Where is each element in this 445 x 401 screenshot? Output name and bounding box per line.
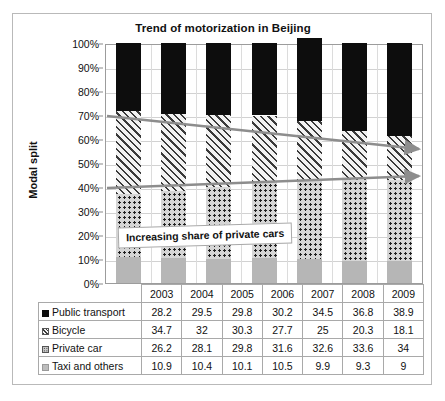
y-axis-ticks: 0%10%20%30%40%50%60%70%80%90%100% xyxy=(55,44,103,284)
bar-segment xyxy=(161,43,186,114)
y-tick-label: 70% xyxy=(53,110,99,122)
table-cell: 29.5 xyxy=(182,303,222,321)
bar-segment xyxy=(252,258,277,283)
stacked-bar xyxy=(297,45,322,283)
y-tick-mark xyxy=(99,212,103,213)
table-corner-cell xyxy=(39,285,142,303)
stacked-bar xyxy=(387,45,412,283)
table-cell: 38.9 xyxy=(383,303,423,321)
legend-swatch-icon xyxy=(42,346,49,353)
bar-segment xyxy=(342,43,367,131)
legend-label: Private car xyxy=(52,342,102,354)
table-cell: 10.9 xyxy=(142,357,182,375)
y-tick-label: 40% xyxy=(53,182,99,194)
table-cell: 32 xyxy=(182,321,222,339)
bar-segment xyxy=(206,43,231,115)
legend-label: Taxi and others xyxy=(52,360,123,372)
table-year-header: 2003 xyxy=(142,285,182,303)
bar-segment xyxy=(206,115,231,188)
y-tick-mark xyxy=(99,236,103,237)
bar-segment xyxy=(387,43,412,136)
table-cell: 10.1 xyxy=(222,357,262,375)
bar-segment xyxy=(342,131,367,180)
y-tick-mark xyxy=(99,116,103,117)
table-cell: 34.7 xyxy=(142,321,182,339)
table-cell: 32.6 xyxy=(303,339,343,357)
bar-segment xyxy=(116,43,141,111)
table-row-label: Bicycle xyxy=(39,321,142,339)
y-tick-label: 60% xyxy=(53,134,99,146)
table-row: Taxi and others10.910.410.110.59.99.39 xyxy=(39,357,424,375)
table-header-row: 2003200420052006200720082009 xyxy=(39,285,424,303)
table-row: Public transport28.229.529.830.234.536.8… xyxy=(39,303,424,321)
y-tick-mark xyxy=(99,260,103,261)
bar-segment xyxy=(252,116,277,182)
bar-segment xyxy=(342,261,367,283)
stacked-bar xyxy=(206,45,231,283)
data-table: 2003200420052006200720082009Public trans… xyxy=(38,284,424,375)
bar-segment xyxy=(297,38,322,121)
data-table-body: 2003200420052006200720082009Public trans… xyxy=(39,285,424,375)
table-cell: 10.4 xyxy=(182,357,222,375)
table-cell: 29.8 xyxy=(222,339,262,357)
table-cell: 10.5 xyxy=(262,357,302,375)
y-tick-label: 20% xyxy=(53,230,99,242)
vertical-gridline xyxy=(241,45,242,283)
vertical-gridline xyxy=(196,45,197,283)
table-cell: 33.6 xyxy=(343,339,383,357)
bar-segment xyxy=(252,182,277,258)
table-row-label: Public transport xyxy=(39,303,142,321)
y-tick-label: 90% xyxy=(53,62,99,74)
y-tick-label: 10% xyxy=(53,254,99,266)
table-cell: 29.8 xyxy=(222,303,262,321)
y-tick-mark xyxy=(99,44,103,45)
bar-segment xyxy=(387,136,412,179)
stacked-bar xyxy=(342,45,367,283)
bar-segment xyxy=(342,180,367,261)
y-tick-label: 100% xyxy=(53,38,99,50)
table-cell: 25 xyxy=(303,321,343,339)
table-cell: 30.2 xyxy=(262,303,302,321)
table-cell: 31.6 xyxy=(262,339,302,357)
legend-swatch-icon xyxy=(42,310,49,317)
table-row-label: Private car xyxy=(39,339,142,357)
table-cell: 26.2 xyxy=(142,339,182,357)
table-cell: 18.1 xyxy=(383,321,423,339)
bar-segment xyxy=(206,187,231,259)
bar-segment xyxy=(116,257,141,283)
table-cell: 28.1 xyxy=(182,339,222,357)
y-tick-mark xyxy=(99,68,103,69)
bar-segment xyxy=(161,114,186,191)
table-cell: 27.7 xyxy=(262,321,302,339)
bar-segment xyxy=(297,181,322,259)
y-tick-label: 80% xyxy=(53,86,99,98)
y-tick-mark xyxy=(99,188,103,189)
bar-segment xyxy=(297,259,322,283)
bar-segment xyxy=(387,261,412,283)
y-tick-mark xyxy=(99,164,103,165)
legend-swatch-icon xyxy=(42,364,49,371)
chart-figure: Trend of motorization in Beijing Modal s… xyxy=(12,13,432,385)
table-row: Private car26.228.129.831.632.633.634 xyxy=(39,339,424,357)
table-year-header: 2004 xyxy=(182,285,222,303)
table-cell: 9.9 xyxy=(303,357,343,375)
table-year-header: 2008 xyxy=(343,285,383,303)
plot-area xyxy=(105,44,423,284)
y-tick-mark xyxy=(99,92,103,93)
vertical-gridline xyxy=(287,45,288,283)
vertical-gridline xyxy=(332,45,333,283)
table-row: Bicycle34.73230.327.72520.318.1 xyxy=(39,321,424,339)
table-cell: 20.3 xyxy=(343,321,383,339)
bar-segment xyxy=(161,191,186,258)
y-tick-label: 50% xyxy=(53,158,99,170)
vertical-gridline xyxy=(377,45,378,283)
table-year-header: 2007 xyxy=(303,285,343,303)
table-cell: 36.8 xyxy=(343,303,383,321)
bar-segment xyxy=(161,258,186,283)
legend-label: Public transport xyxy=(52,306,125,318)
table-cell: 9.3 xyxy=(343,357,383,375)
stacked-bar xyxy=(161,45,186,283)
bar-segment xyxy=(387,180,412,262)
table-cell: 28.2 xyxy=(142,303,182,321)
bar-segment xyxy=(206,259,231,283)
